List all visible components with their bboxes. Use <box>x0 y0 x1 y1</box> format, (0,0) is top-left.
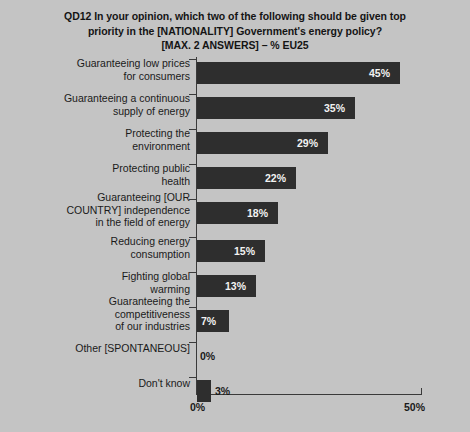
chart-title-line-1: QD12 In your opinion, which two of the f… <box>0 9 470 24</box>
bar-value-label: 3% <box>215 386 230 397</box>
x-axis-tick-label-50: 50% <box>404 401 425 413</box>
category-label: Protecting the environment <box>8 127 190 152</box>
y-axis-tick <box>189 129 196 130</box>
bar-value-label: 7% <box>201 316 216 327</box>
y-axis-tick <box>189 164 196 165</box>
bar-value-label: 18% <box>247 208 268 219</box>
y-axis-tick <box>189 237 196 238</box>
category-label: Guaranteeing the competitiveness of our … <box>8 295 190 333</box>
category-label: Other [SPONTANEOUS] <box>8 342 190 355</box>
bar-value-label: 35% <box>324 103 345 114</box>
chart-title: QD12 In your opinion, which two of the f… <box>0 9 470 53</box>
y-axis-tick <box>189 199 196 200</box>
category-label: Reducing energy consumption <box>8 235 190 260</box>
y-axis-tick <box>189 377 196 378</box>
y-axis-tick <box>189 307 196 308</box>
category-label: Don't know <box>8 377 190 390</box>
chart-container: QD12 In your opinion, which two of the f… <box>0 0 470 432</box>
bar-value-label: 29% <box>297 138 318 149</box>
x-axis-end-cap <box>421 388 422 395</box>
category-label: Guaranteeing [OUR COUNTRY] independence … <box>8 191 190 229</box>
bar-value-label: 15% <box>234 246 255 257</box>
category-label: Guaranteeing a continuous supply of ener… <box>8 92 190 117</box>
bar <box>197 380 211 402</box>
x-axis-tick-label-0: 0% <box>190 401 205 413</box>
bar-value-label: 45% <box>369 68 390 79</box>
category-label: Protecting public health <box>8 162 190 187</box>
y-axis-tick <box>189 59 196 60</box>
category-label: Fighting global warming <box>8 270 190 295</box>
bar-value-label: 13% <box>225 281 246 292</box>
y-axis-tick <box>189 342 196 343</box>
chart-title-line-3: [MAX. 2 ANSWERS] – % EU25 <box>0 38 470 53</box>
y-axis-tick <box>189 94 196 95</box>
y-axis-tick <box>189 272 196 273</box>
plot-area: Guaranteeing low prices for consumers 45… <box>0 57 470 432</box>
category-label: Guaranteeing low prices for consumers <box>8 57 190 82</box>
bar-value-label: 22% <box>265 173 286 184</box>
bar-value-label: 0% <box>200 351 215 362</box>
chart-title-line-2: priority in the [NATIONALITY] Government… <box>0 24 470 39</box>
